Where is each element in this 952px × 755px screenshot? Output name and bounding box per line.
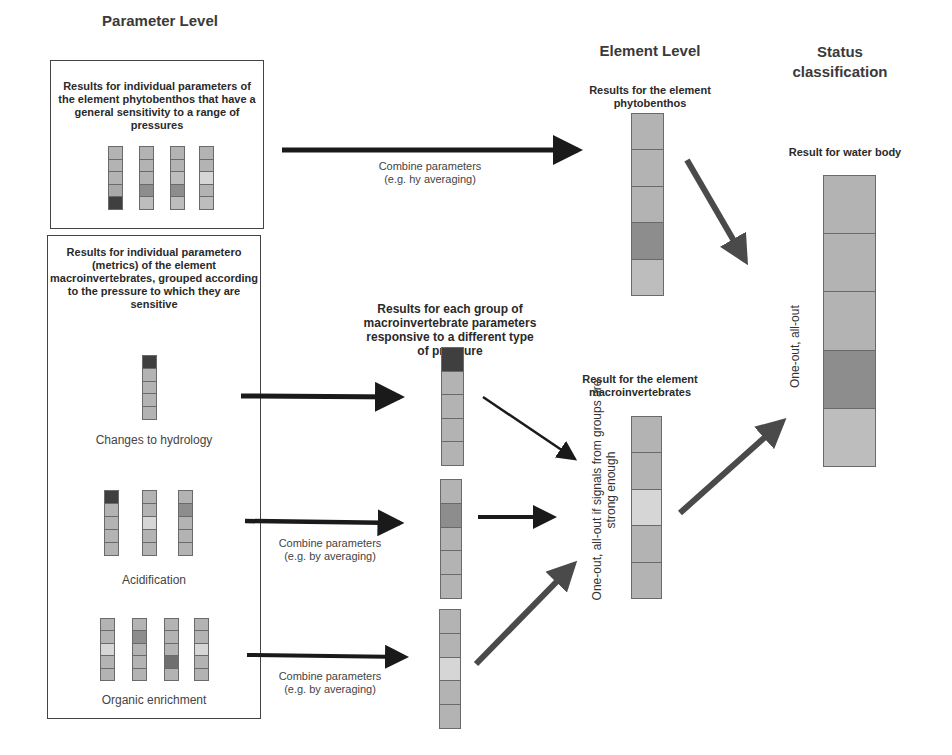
- combine-label-mid-2: (e.g. by averaging): [250, 550, 410, 563]
- bar-segment: [200, 147, 213, 160]
- bar-segment: [824, 351, 875, 409]
- group-result-bar-acidification: [440, 479, 462, 599]
- bar-segment: [200, 185, 213, 198]
- bar-segment: [105, 504, 118, 517]
- bar-segment: [133, 669, 146, 680]
- bar-segment: [632, 260, 663, 295]
- bar-segment: [632, 150, 663, 186]
- heading-parameter-level: Parameter Level: [60, 12, 260, 29]
- bar-segment: [442, 442, 463, 465]
- element-macroinvertebrates-title: Result for the element macroinvertebrate…: [565, 373, 715, 399]
- bar-segment: [109, 147, 122, 160]
- hydrology-parameter-bar: [142, 355, 157, 420]
- organic-enrichment-parameter-bar: [132, 618, 147, 681]
- arrow-organic-combine: [247, 655, 405, 657]
- bar-segment: [140, 185, 153, 198]
- bar-segment: [101, 644, 114, 656]
- bar-segment: [105, 491, 118, 504]
- bar-segment: [442, 395, 463, 419]
- bar-segment: [200, 160, 213, 173]
- bar-segment: [143, 369, 156, 382]
- organic-enrichment-parameter-bar: [100, 618, 115, 681]
- bar-segment: [440, 705, 460, 728]
- bar-segment: [133, 631, 146, 643]
- bar-segment: [195, 631, 208, 643]
- bar-segment: [195, 619, 208, 631]
- bar-segment: [440, 681, 460, 705]
- water-body-rule-text: One-out, all-out: [788, 305, 802, 388]
- bar-segment: [143, 517, 156, 530]
- bar-segment: [632, 453, 661, 489]
- bar-segment: [179, 530, 192, 543]
- bar-segment: [632, 526, 661, 562]
- bar-segment: [109, 185, 122, 198]
- bar-segment: [143, 356, 156, 369]
- group-label-organic-enrichment: Organic enrichment: [48, 694, 260, 707]
- bar-segment: [441, 551, 461, 575]
- bar-segment: [133, 619, 146, 631]
- bar-segment: [171, 160, 184, 173]
- bar-segment: [140, 160, 153, 173]
- bar-segment: [200, 172, 213, 185]
- phytobenthos-parameters-panel: Results for individual parameters of the…: [50, 60, 264, 229]
- bar-segment: [440, 634, 460, 658]
- group-label-acidification: Acidification: [48, 574, 260, 587]
- combine-label-top-1: Combine parameters: [350, 160, 510, 173]
- arrow-macro-to-waterbody: [680, 422, 782, 513]
- phyto-parameter-bar: [139, 146, 154, 210]
- group-result-bar-hydrology: [441, 347, 464, 466]
- bar-segment: [632, 187, 663, 223]
- bar-segment: [165, 669, 178, 680]
- bar-segment: [105, 543, 118, 555]
- bar-segment: [440, 658, 460, 682]
- organic-enrichment-parameter-bar: [194, 618, 209, 681]
- bar-segment: [109, 172, 122, 185]
- bar-segment: [105, 530, 118, 543]
- bar-segment: [143, 382, 156, 395]
- bar-segment: [140, 147, 153, 160]
- phyto-parameter-bar: [170, 146, 185, 210]
- bar-segment: [165, 644, 178, 656]
- combine-label-bot-2: (e.g. by averaging): [250, 683, 410, 696]
- bar-segment: [195, 669, 208, 680]
- combine-label-top-2: (e.g. hy averaging): [350, 173, 510, 186]
- heading-status-classification: Status classification: [780, 42, 900, 82]
- phytobenthos-parameters-description: Results for individual parameters of the…: [55, 80, 259, 132]
- arrow-hydrology-combine: [241, 396, 400, 397]
- bar-segment: [140, 172, 153, 185]
- acidification-parameter-bar: [178, 490, 193, 556]
- bar-segment: [440, 610, 460, 634]
- bar-segment: [101, 631, 114, 643]
- arrow-phyto-to-waterbody: [687, 160, 745, 260]
- bar-segment: [441, 504, 461, 528]
- element-macro-rule-text: One-out, all-out if signals from groups …: [590, 375, 618, 605]
- bar-segment: [143, 491, 156, 504]
- bar-segment: [442, 348, 463, 372]
- arrow-acidification-combine: [245, 521, 400, 523]
- bar-segment: [171, 172, 184, 185]
- bar-segment: [824, 234, 875, 292]
- bar-segment: [195, 656, 208, 668]
- bar-segment: [171, 147, 184, 160]
- bar-segment: [133, 656, 146, 668]
- bar-segment: [824, 176, 875, 234]
- bar-segment: [441, 480, 461, 504]
- bar-segment: [632, 223, 663, 259]
- bar-segment: [824, 292, 875, 350]
- bar-segment: [101, 669, 114, 680]
- element-phytobenthos-title: Results for the element phytobenthos: [565, 84, 735, 110]
- water-body-title: Result for water body: [780, 146, 910, 159]
- organic-enrichment-parameter-bar: [164, 618, 179, 681]
- bar-segment: [105, 517, 118, 530]
- water-body-result-bar: [823, 175, 876, 467]
- phyto-parameter-bar: [108, 146, 123, 210]
- bar-segment: [165, 631, 178, 643]
- bar-segment: [143, 543, 156, 555]
- bar-segment: [143, 504, 156, 517]
- macroinvertebrate-parameters-description: Results for individual parametero (metri…: [50, 246, 258, 311]
- bar-segment: [143, 530, 156, 543]
- bar-segment: [441, 528, 461, 552]
- bar-segment: [171, 185, 184, 198]
- macroinvertebrate-parameters-panel: Results for individual parametero (metri…: [47, 235, 261, 719]
- arrow-group3-to-element: [476, 565, 573, 664]
